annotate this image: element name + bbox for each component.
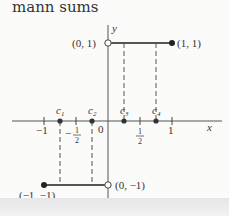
- svg-text:2: 2: [75, 136, 79, 145]
- tick-label-neg1: −1: [36, 124, 48, 136]
- svg-text:c2: c2: [88, 104, 97, 118]
- origin-label: 0: [98, 123, 104, 135]
- point-label-0-neg1: (0, −1): [115, 179, 145, 192]
- y-axis-label: y: [111, 22, 117, 34]
- x-axis-label: x: [206, 121, 212, 133]
- svg-text:c4: c4: [152, 104, 161, 118]
- svg-text:c1: c1: [56, 104, 64, 118]
- open-point-icon: [105, 40, 111, 46]
- closed-point-icon: [169, 40, 175, 46]
- tick-label-neg-half: − 1 2: [65, 126, 81, 145]
- svg-text:1: 1: [75, 126, 79, 135]
- closed-point-icon: [41, 182, 47, 188]
- svg-text:c3: c3: [120, 104, 129, 118]
- svg-text:2: 2: [138, 137, 142, 146]
- tick-label-half: 1 2: [136, 127, 144, 146]
- open-point-icon: [105, 182, 111, 188]
- step-function-diagram: y x 0 −1 1 − 1 2 1 2 c1 c2 c3 c4 (0, 1) …: [0, 0, 229, 216]
- svg-text:−: −: [65, 127, 71, 139]
- svg-text:1: 1: [138, 127, 142, 136]
- tick-label-1: 1: [168, 124, 174, 136]
- point-label-1-1: (1, 1): [177, 37, 201, 50]
- point-label-0-1: (0, 1): [72, 37, 96, 50]
- page-edge: [0, 198, 229, 216]
